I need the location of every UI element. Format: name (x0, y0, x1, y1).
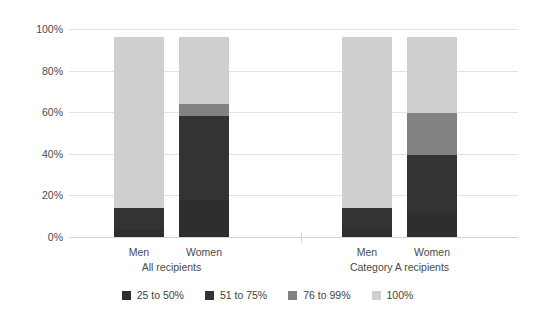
bar-segment[interactable] (114, 37, 164, 208)
bar-segment[interactable] (342, 37, 392, 208)
legend-label: 25 to 50% (137, 289, 184, 301)
legend-swatch-icon (372, 291, 381, 300)
y-axis-tick-label: 0% (5, 232, 63, 243)
y-axis-tick-label: 100% (5, 24, 63, 35)
bar-segment[interactable] (407, 113, 457, 155)
y-axis-tick-label: 60% (5, 107, 63, 118)
legend-item[interactable]: 100% (372, 289, 414, 301)
bar-segment[interactable] (342, 208, 392, 228)
bar-segment[interactable] (179, 116, 229, 199)
legend-label: 51 to 75% (220, 289, 267, 301)
y-axis-tick-label: 40% (5, 148, 63, 159)
bar-stack[interactable] (114, 29, 164, 237)
x-axis-category-label: Women (392, 246, 472, 258)
legend-swatch-icon (122, 291, 131, 300)
x-axis-group-label: Category A recipients (310, 261, 490, 273)
bar-stack[interactable] (179, 29, 229, 237)
legend-swatch-icon (205, 291, 214, 300)
bars-layer (69, 29, 518, 237)
legend-item[interactable]: 76 to 99% (288, 289, 350, 301)
bar-stack[interactable] (342, 29, 392, 237)
stacked-bar-chart: 100%80%60%40%20%0% MenWomenMenWomenAll r… (0, 0, 535, 322)
legend-item[interactable]: 51 to 75% (205, 289, 267, 301)
x-axis-category-label: Women (164, 246, 244, 258)
bar-segment[interactable] (179, 37, 229, 104)
gridline-0 (69, 237, 518, 238)
bar-segment[interactable] (179, 104, 229, 116)
legend-swatch-icon (288, 291, 297, 300)
bar-stack[interactable] (407, 29, 457, 237)
chart-legend: 25 to 50%51 to 75%76 to 99%100% (0, 289, 535, 301)
plot-area (69, 29, 518, 237)
y-axis-tick-label: 80% (5, 65, 63, 76)
group-separator (301, 233, 302, 243)
x-axis-group-label: All recipients (82, 261, 262, 273)
y-axis: 100%80%60%40%20%0% (0, 29, 63, 237)
legend-item[interactable]: 25 to 50% (122, 289, 184, 301)
bar-segment[interactable] (407, 213, 457, 237)
bar-segment[interactable] (342, 228, 392, 237)
bar-segment[interactable] (114, 208, 164, 230)
legend-label: 100% (387, 289, 414, 301)
bar-segment[interactable] (179, 200, 229, 237)
bar-segment[interactable] (114, 230, 164, 237)
bar-segment[interactable] (407, 155, 457, 213)
legend-label: 76 to 99% (303, 289, 350, 301)
y-axis-tick-label: 20% (5, 190, 63, 201)
bar-segment[interactable] (407, 37, 457, 113)
